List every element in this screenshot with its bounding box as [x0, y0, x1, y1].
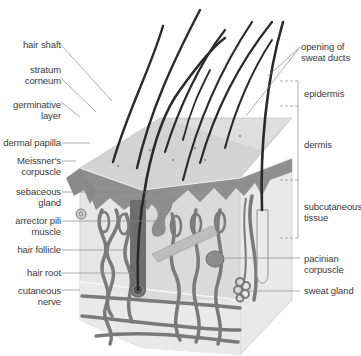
- label-cutaneous-nerve: cutaneous nerve: [0, 285, 61, 307]
- label-arrector-pili-muscle: arrector pili muscle: [0, 215, 61, 237]
- label-hair-follicle: hair follicle: [0, 244, 61, 255]
- label-sweat-gland: sweat gland: [304, 285, 361, 296]
- label-opening-of-sweat-ducts: opening of sweat ducts: [301, 41, 361, 63]
- pacinian-corpuscle-shape: [206, 251, 224, 267]
- label-dermal-papilla: dermal papilla: [0, 137, 61, 148]
- right-follicle-shape: [257, 210, 268, 283]
- label-pacinian-corpuscle: pacinian corpuscle: [304, 253, 361, 275]
- label-germinative-layer: germinative layer: [0, 99, 61, 121]
- label-dermis: dermis: [304, 139, 361, 150]
- label-epidermis: epidermis: [304, 88, 361, 99]
- label-hair-root: hair root: [0, 267, 61, 278]
- meissners-corpuscle-shape: [76, 209, 86, 219]
- label-meissners-corpuscle: Meissner's corpuscle: [0, 155, 61, 177]
- label-stratum-corneum: stratum corneum: [0, 64, 61, 86]
- label-hair-shaft: hair shaft: [0, 39, 61, 50]
- label-subcutaneous-tissue: subcutaneous tissue: [304, 201, 361, 223]
- label-sebaceous-gland: sebaceous gland: [0, 186, 61, 208]
